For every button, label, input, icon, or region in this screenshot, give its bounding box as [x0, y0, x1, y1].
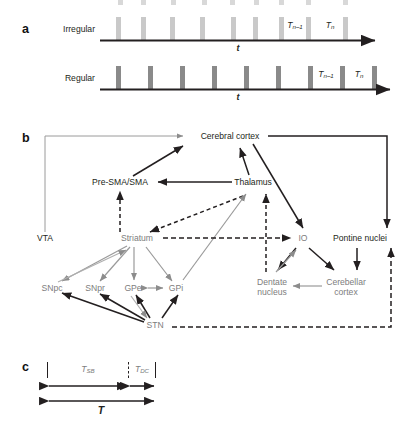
edge-thalamus-to-striatum — [150, 196, 243, 232]
node-vta: VTA — [37, 233, 53, 243]
interval-sub-tn-1-regular: n–1 — [323, 72, 333, 79]
measure-sub-t-dc: DC — [140, 367, 149, 374]
figure-root: a b c Irregular Regular t t Tn–1 Tn Tn–1… — [0, 0, 405, 432]
edge-cortex-to-pontine — [268, 136, 387, 228]
node-io: IO — [298, 233, 307, 243]
interval-sub-tn-irregular: n — [331, 23, 334, 30]
interval-sub-tn-regular: n — [360, 72, 363, 79]
edge-presma-to-cortex — [133, 146, 183, 176]
edge-thalamus-to-cortex — [240, 148, 249, 175]
node-cerebellar-cortex-line1: Cerebellar — [326, 277, 366, 287]
edge-snpc-to-striatum — [58, 250, 126, 282]
interval-label-tn-regular: Tn — [355, 69, 364, 79]
node-cerebellar-cortex-line2: cortex — [334, 287, 357, 297]
node-striatum: Striatum — [121, 233, 153, 243]
node-cerebellar-cortex: Cerebellar cortex — [326, 277, 366, 297]
node-pre-sma-sma: Pre-SMA/SMA — [92, 177, 148, 187]
row-label-irregular: Irregular — [63, 24, 95, 34]
axis-label-t-irregular: t — [237, 43, 240, 53]
panel-b-edges — [45, 136, 391, 327]
edge-stn-to-gpi — [162, 295, 178, 318]
row-label-regular: Regular — [65, 73, 95, 83]
interval-label-tn-1-irregular: Tn–1 — [287, 20, 303, 30]
edge-dentate-to-io — [276, 250, 296, 272]
edge-striatum-to-gpi — [146, 247, 172, 281]
measure-label-t-dc: TDC — [135, 364, 149, 374]
measure-sub-t-sb: SB — [86, 367, 94, 374]
interval-sub-tn-1-irregular: n–1 — [292, 23, 302, 30]
node-snpc: SNpc — [41, 283, 62, 293]
figure-graphics — [0, 0, 405, 432]
node-dentate-nucleus-line2: nucleus — [257, 287, 287, 297]
node-cerebral-cortex: Cerebral cortex — [201, 131, 260, 141]
axis-label-t-regular: t — [237, 92, 240, 102]
panel-a-irregular-bars — [116, 17, 348, 40]
panel-a-clipped-row — [118, 0, 348, 5]
edge-io-to-cerebellar — [309, 248, 334, 270]
node-dentate-nucleus: Dentate nucleus — [257, 277, 287, 297]
interval-label-tn-1-regular: Tn–1 — [318, 69, 334, 79]
panel-a-regular-bars — [116, 66, 377, 89]
node-dentate-nucleus-line1: Dentate — [257, 277, 287, 287]
node-stn: STN — [146, 320, 163, 330]
node-thalamus: Thalamus — [234, 177, 272, 187]
node-snpr: SNpr — [85, 283, 105, 293]
panel-letter-b: b — [22, 131, 30, 145]
measure-label-t-sb: TSB — [81, 364, 95, 374]
measure-label-t-total: T — [98, 404, 104, 416]
panel-letter-a: a — [22, 22, 29, 36]
node-pontine-nuclei: Pontine nuclei — [333, 233, 387, 243]
node-gpi: GPi — [169, 283, 183, 293]
panel-letter-c: c — [22, 360, 29, 374]
node-gpe: GPe — [124, 283, 141, 293]
interval-label-tn-irregular: Tn — [326, 20, 335, 30]
